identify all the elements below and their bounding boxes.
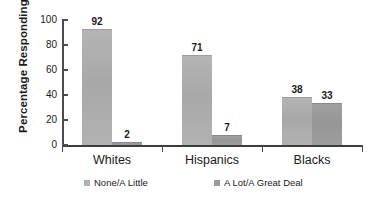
bar: [282, 97, 312, 146]
x-axis-category-tick: [262, 145, 263, 152]
y-tick-label: 40: [29, 90, 57, 100]
bar-value-label: 7: [207, 123, 247, 133]
bar: [312, 103, 342, 145]
x-axis-category-label: Blacks: [257, 153, 367, 167]
bar-value-label: 92: [77, 17, 117, 27]
y-axis-title: Percentage Responding: [17, 0, 29, 141]
legend-label: None/A Little: [94, 177, 148, 188]
bar: [212, 135, 242, 145]
y-tick-label: 80: [29, 40, 57, 50]
x-axis-category-tick: [162, 145, 163, 152]
y-tick-label: 0: [29, 140, 57, 150]
legend-swatch-icon: [214, 180, 220, 186]
y-tick-label: 60: [29, 65, 57, 75]
x-axis-line: [62, 145, 362, 147]
legend-label: A Lot/A Great Deal: [224, 177, 303, 188]
legend-item[interactable]: None/A Little: [84, 177, 148, 188]
chart-legend: None/A LittleA Lot/A Great Deal: [0, 177, 383, 193]
bar-chart: Percentage Responding 020406080100 92271…: [0, 0, 383, 198]
bar: [82, 29, 112, 145]
y-tick-label: 100: [29, 15, 57, 25]
x-axis-category-tick: [62, 145, 63, 152]
x-axis-category-tick: [362, 145, 363, 152]
y-tick-label: 20: [29, 115, 57, 125]
bar-value-label: 33: [307, 91, 347, 101]
legend-swatch-icon: [84, 180, 90, 186]
x-axis-category-label: Hispanics: [157, 153, 267, 167]
legend-item[interactable]: A Lot/A Great Deal: [214, 177, 303, 188]
bar-value-label: 71: [177, 43, 217, 53]
x-axis-category-label: Whites: [57, 153, 167, 167]
bar: [112, 142, 142, 146]
bar-value-label: 2: [107, 130, 147, 140]
